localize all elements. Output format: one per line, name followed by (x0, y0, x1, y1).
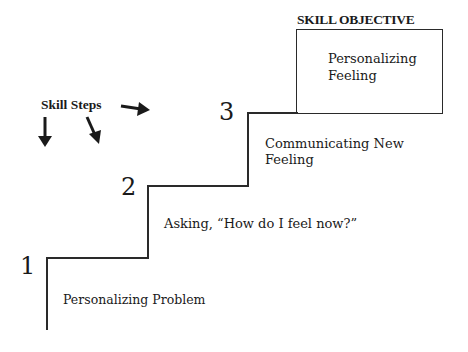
step-2-number: 2 (121, 175, 136, 199)
skill-steps-label: Skill Steps (41, 97, 101, 113)
arrow-diagonal-down-right-icon (84, 116, 108, 146)
arrow-down-icon (36, 116, 56, 148)
step-2-riser (147, 185, 149, 259)
step-3-tread (247, 112, 298, 114)
arrow-right-icon (120, 100, 152, 118)
step-1-number: 1 (20, 254, 35, 278)
step-2-label: Asking, “How do I feel now?” (164, 216, 357, 232)
skill-objective-title: SKILL OBJECTIVE (297, 12, 447, 28)
step-3-riser (247, 112, 249, 187)
step-3-label-line1: Communicating New (265, 136, 404, 152)
step-1-tread (46, 257, 149, 259)
step-3-number: 3 (219, 100, 234, 124)
step-3-label-line2: Feeling (265, 152, 314, 168)
step-1-riser (46, 258, 48, 330)
objective-text-line1: Personalizing (328, 51, 417, 67)
objective-text-line2: Feeling (328, 68, 377, 84)
step-2-tread (147, 185, 249, 187)
step-1-label: Personalizing Problem (63, 292, 205, 308)
